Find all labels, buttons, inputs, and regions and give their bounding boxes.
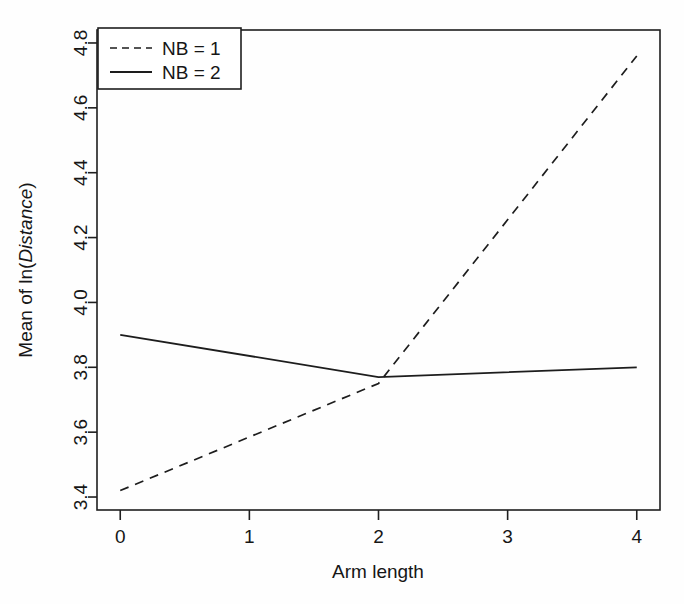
legend-label-nb-1: NB = 1 [162, 38, 221, 59]
plot-frame [97, 30, 660, 510]
x-axis-title: Arm length [332, 561, 424, 582]
y-tick-label: 3.8 [70, 354, 91, 380]
x-tick-label: 1 [244, 526, 255, 547]
x-tick-label: 4 [631, 526, 642, 547]
chart-canvas: 3.43.63.84.04.24.44.64.8 01234 Arm lengt… [0, 0, 684, 604]
y-axis-title-prefix: Mean of ln( [15, 262, 36, 358]
series-line-nb-1 [120, 56, 637, 491]
y-tick-label: 4.8 [70, 30, 91, 56]
y-tick-label: 4.0 [70, 289, 91, 315]
interaction-plot-figure: 3.43.63.84.04.24.44.64.8 01234 Arm lengt… [0, 0, 684, 604]
x-tick-label: 3 [502, 526, 513, 547]
y-tick-label: 4.6 [70, 95, 91, 121]
y-axis-title-suffix: ) [15, 182, 36, 188]
series-line-nb-2 [120, 335, 637, 377]
y-axis-title: Mean of ln(Distance) [15, 182, 36, 357]
data-series-group [120, 56, 637, 491]
y-tick-label: 4.4 [70, 159, 91, 186]
legend-label-nb-2: NB = 2 [162, 62, 221, 83]
x-tick-label: 2 [373, 526, 384, 547]
legend[interactable]: NB = 1 NB = 2 [98, 28, 241, 89]
x-axis-ticks: 01234 [115, 510, 643, 547]
y-tick-label: 4.2 [70, 224, 91, 250]
y-tick-label: 3.4 [70, 483, 91, 510]
y-axis-title-italic: Distance [15, 189, 36, 263]
y-axis-ticks: 3.43.63.84.04.24.44.64.8 [70, 30, 97, 510]
y-tick-label: 3.6 [70, 419, 91, 445]
x-tick-label: 0 [115, 526, 126, 547]
